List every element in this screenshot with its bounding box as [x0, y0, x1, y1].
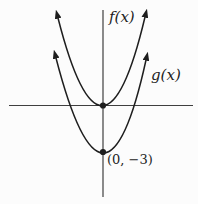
g-curve-label: g(x)	[151, 66, 181, 84]
origin-vertex-point	[100, 102, 106, 108]
f-curve-label: f(x)	[108, 8, 135, 26]
parabola-figure: f(x) g(x) (0, −3)	[0, 0, 198, 204]
g-vertex-point	[100, 149, 106, 155]
f-parabola-curve	[58, 17, 145, 106]
g-vertex-point-label: (0, −3)	[107, 152, 153, 167]
function-graph-canvas: f(x) g(x) (0, −3)	[0, 0, 198, 204]
